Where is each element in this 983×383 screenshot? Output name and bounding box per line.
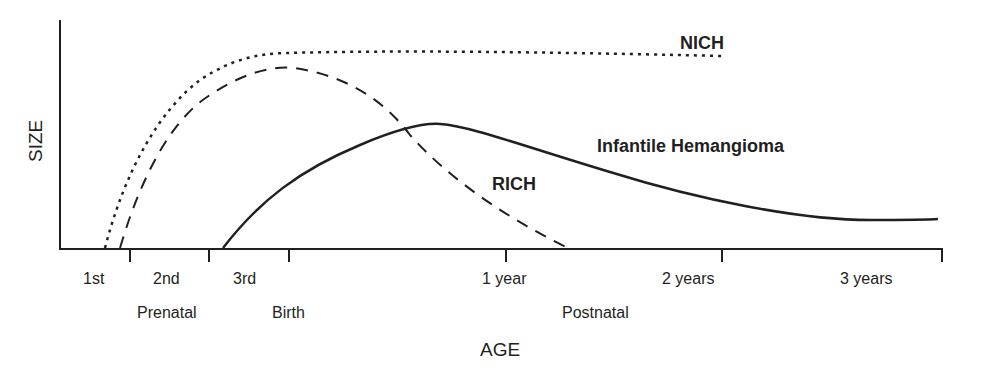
x-group-label-postnatal: Postnatal [562, 304, 629, 321]
x-tick-marks [130, 249, 942, 262]
chart: NICH RICH Infantile Hemangioma 1st 2nd 3… [0, 0, 983, 383]
x-group-label-prenatal: Prenatal [137, 304, 197, 321]
y-axis-title: SIZE [25, 120, 46, 162]
series-label-rich: RICH [492, 174, 536, 194]
series-rich-line [120, 67, 570, 249]
x-tick-label-1-year: 1 year [482, 270, 527, 287]
x-tick-label-3rd: 3rd [233, 270, 256, 287]
series-label-infantile-hemangioma: Infantile Hemangioma [597, 136, 785, 156]
x-tick-label-1st: 1st [83, 270, 105, 287]
x-tick-label-2-years: 2 years [662, 270, 714, 287]
x-axis-title: AGE [480, 339, 520, 360]
series-label-nich: NICH [680, 33, 724, 53]
series-ih-line [223, 124, 938, 248]
x-group-label-birth: Birth [272, 304, 305, 321]
x-tick-label-2nd: 2nd [153, 270, 180, 287]
x-tick-label-3-years: 3 years [840, 270, 892, 287]
